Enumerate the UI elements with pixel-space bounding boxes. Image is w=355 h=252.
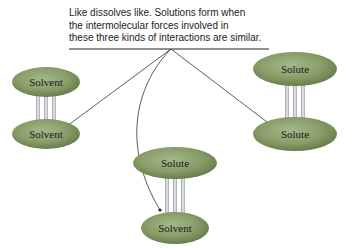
pointer-dot — [158, 208, 161, 211]
pair-solvent-solvent: Solvent Solvent — [12, 67, 80, 149]
molecule-label: Solvent — [158, 222, 192, 234]
interaction-diagram: Solvent Solvent Solute Solute Solute Sol… — [0, 0, 355, 252]
pointer-to-solute-solute — [171, 49, 271, 125]
molecule-label: Solute — [281, 128, 309, 140]
molecule-label: Solute — [281, 63, 309, 75]
pair-solute-solvent: Solute Solvent — [133, 147, 217, 244]
molecule-label: Solute — [161, 157, 189, 169]
pointer-to-solvent-solvent — [67, 49, 171, 126]
molecule-label: Solvent — [29, 128, 63, 140]
pair-solute-solute: Solute Solute — [253, 52, 337, 151]
molecule-label: Solvent — [29, 76, 63, 88]
